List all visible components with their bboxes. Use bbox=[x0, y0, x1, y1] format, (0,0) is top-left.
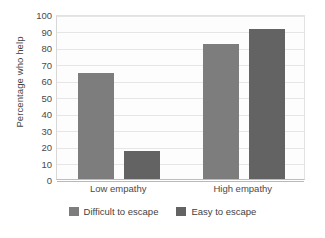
x-axis-tick-label: Low empathy bbox=[90, 183, 147, 194]
y-axis-tick-label: 80 bbox=[22, 43, 52, 54]
y-axis-tick-label: 100 bbox=[22, 10, 52, 21]
bar bbox=[78, 73, 114, 179]
legend-item: Difficult to escape bbox=[69, 206, 159, 217]
y-axis-tick-label: 30 bbox=[22, 125, 52, 136]
legend-label: Easy to escape bbox=[191, 206, 256, 217]
y-axis-tick-label: 0 bbox=[22, 175, 52, 186]
bar bbox=[249, 29, 285, 179]
bar bbox=[203, 44, 239, 179]
bar-chart: Percentage who help 01020304050607080901… bbox=[0, 0, 325, 238]
y-axis-tick-label: 40 bbox=[22, 109, 52, 120]
legend-label: Difficult to escape bbox=[84, 206, 159, 217]
legend-swatch-icon bbox=[176, 207, 186, 216]
legend-swatch-icon bbox=[69, 207, 79, 216]
y-axis-tick-label: 50 bbox=[22, 92, 52, 103]
y-axis-tick-label: 20 bbox=[22, 142, 52, 153]
y-axis-tick-label: 60 bbox=[22, 76, 52, 87]
plot-area bbox=[56, 15, 305, 180]
x-axis-tick-labels: Low empathyHigh empathy bbox=[56, 183, 305, 199]
y-axis-tick-label: 90 bbox=[22, 26, 52, 37]
bars-layer bbox=[57, 16, 304, 179]
x-axis-tick-label: High empathy bbox=[213, 183, 272, 194]
gridline bbox=[57, 181, 304, 182]
legend: Difficult to escapeEasy to escape bbox=[0, 206, 325, 217]
bar bbox=[124, 151, 160, 179]
y-axis-tick-label: 10 bbox=[22, 158, 52, 169]
y-axis-tick-labels: 0102030405060708090100 bbox=[22, 15, 52, 180]
y-axis-tick-label: 70 bbox=[22, 59, 52, 70]
legend-item: Easy to escape bbox=[176, 206, 256, 217]
